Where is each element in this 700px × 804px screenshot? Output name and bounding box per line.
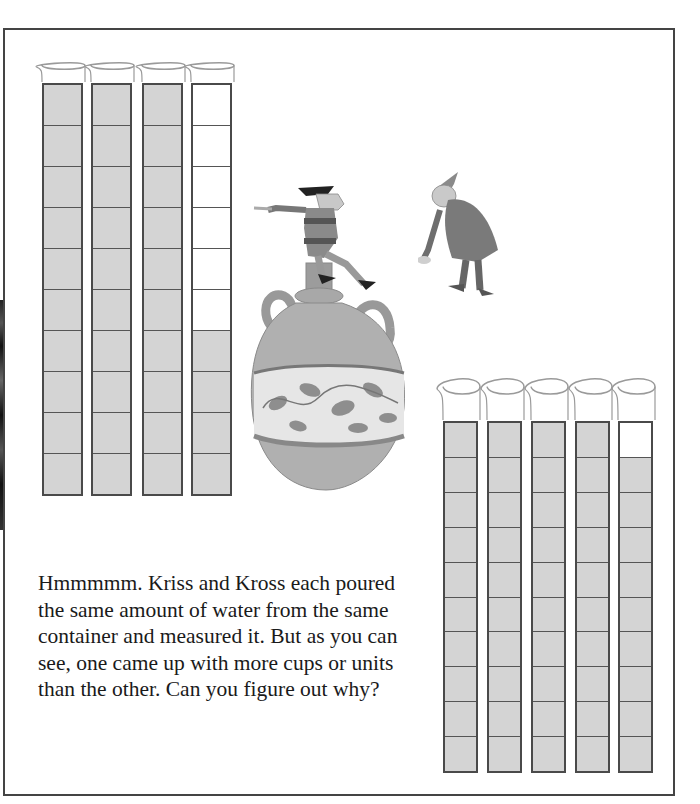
tube-segment <box>489 597 520 632</box>
story-text: Hmmmmm. Kriss and Kross each poured the … <box>38 570 418 703</box>
tube-segment <box>193 330 230 371</box>
tube-segment <box>44 85 81 125</box>
tube-segment <box>489 492 520 527</box>
tube-segment <box>620 701 651 736</box>
tube-segment <box>144 248 181 289</box>
tube-segment <box>445 423 476 457</box>
tube-segment <box>193 166 230 207</box>
tube-rim <box>134 58 189 83</box>
tube-segment <box>445 597 476 632</box>
tube-segment <box>620 562 651 597</box>
tube-rim <box>479 372 528 421</box>
tube-segment <box>44 289 81 330</box>
tube-segment <box>577 631 608 666</box>
tube-segment <box>489 457 520 492</box>
tube-segment <box>533 597 564 632</box>
tube-rim <box>610 372 659 421</box>
tube-body <box>618 421 653 773</box>
tube-segment <box>489 736 520 771</box>
tube-segment <box>577 562 608 597</box>
tube-rim <box>435 372 484 421</box>
tube-segment <box>144 412 181 453</box>
tube-segment <box>533 666 564 701</box>
tube-segment <box>93 125 130 166</box>
tube-segment <box>93 371 130 412</box>
kriss-pointing-arm <box>268 208 306 210</box>
tube-rim <box>83 58 138 83</box>
tube-segment <box>489 666 520 701</box>
tube-segment <box>193 412 230 453</box>
tube-segment <box>44 330 81 371</box>
tube-segment <box>144 125 181 166</box>
vase-illustration <box>248 168 408 493</box>
tube-body <box>443 421 478 773</box>
tube-segment <box>577 527 608 562</box>
tube-segment <box>445 666 476 701</box>
tube-segment <box>193 207 230 248</box>
tube-body <box>575 421 610 773</box>
tube-segment <box>620 597 651 632</box>
tube-segment <box>93 453 130 494</box>
tube-segment <box>445 701 476 736</box>
tube-segment <box>193 248 230 289</box>
tube-segment <box>577 736 608 771</box>
tube-segment <box>489 562 520 597</box>
tube-segment <box>144 330 181 371</box>
tube-segment <box>144 166 181 207</box>
tube-segment <box>533 527 564 562</box>
tube-rim <box>567 372 616 421</box>
tube-segment <box>44 207 81 248</box>
tube-segment <box>93 248 130 289</box>
tube-rim <box>183 58 238 83</box>
tube-segment <box>193 85 230 125</box>
tube-segment <box>533 562 564 597</box>
tube-segment <box>93 85 130 125</box>
tube-segment <box>144 207 181 248</box>
tube-segment <box>193 371 230 412</box>
kriss-body <box>304 208 338 258</box>
tube-segment <box>445 457 476 492</box>
tube-segment <box>577 597 608 632</box>
tube-segment <box>533 701 564 736</box>
tube-segment <box>489 423 520 457</box>
tube-segment <box>620 666 651 701</box>
kross-coat <box>445 199 498 262</box>
tube-segment <box>533 736 564 771</box>
tube-segment <box>577 701 608 736</box>
tube-body <box>531 421 566 773</box>
tube-segment <box>577 666 608 701</box>
tube-segment <box>445 527 476 562</box>
tube-segment <box>620 631 651 666</box>
tube-segment <box>445 492 476 527</box>
tube-rim <box>34 58 89 83</box>
tube-segment <box>533 492 564 527</box>
tube-segment <box>533 423 564 457</box>
tube-segment <box>144 453 181 494</box>
tube-segment <box>533 457 564 492</box>
tube-segment <box>620 492 651 527</box>
tube-segment <box>44 125 81 166</box>
kross-figure <box>418 170 508 300</box>
tube-segment <box>193 453 230 494</box>
tube-segment <box>44 453 81 494</box>
tube-segment <box>93 412 130 453</box>
tube-segment <box>144 371 181 412</box>
tube-segment <box>620 457 651 492</box>
tube-segment <box>445 736 476 771</box>
tube-segment <box>533 631 564 666</box>
tube-segment <box>445 631 476 666</box>
tube-segment <box>577 492 608 527</box>
tube-segment <box>93 330 130 371</box>
tube-segment <box>577 423 608 457</box>
tube-segment <box>445 562 476 597</box>
tube-segment <box>620 736 651 771</box>
tube-segment <box>44 371 81 412</box>
tube-segment <box>620 423 651 457</box>
tube-segment <box>489 631 520 666</box>
tube-body <box>142 83 183 496</box>
tube-segment <box>144 85 181 125</box>
tube-segment <box>44 248 81 289</box>
tube-segment <box>489 701 520 736</box>
tube-segment <box>144 289 181 330</box>
tube-segment <box>577 457 608 492</box>
